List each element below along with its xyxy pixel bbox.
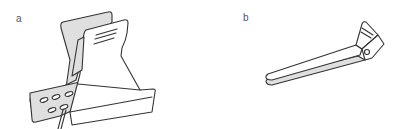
figure-canvas [0, 0, 404, 129]
clip-holder-illustration [30, 12, 155, 129]
hinge-pin-icon [365, 50, 370, 55]
hair-clip-illustration [266, 22, 384, 85]
